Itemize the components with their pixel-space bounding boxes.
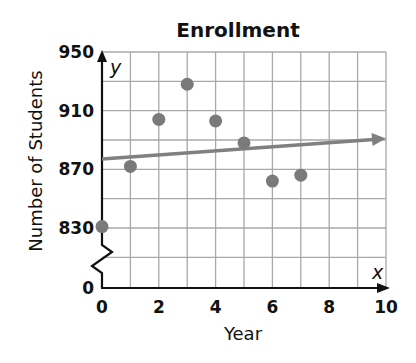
grid xyxy=(102,52,386,288)
x-tick-label: 8 xyxy=(323,297,335,317)
data-point xyxy=(294,169,307,182)
x-tick-labels: 0246810 xyxy=(96,297,398,317)
axes xyxy=(92,50,390,293)
trend-arrow-icon xyxy=(372,133,386,146)
chart-title: Enrollment xyxy=(176,18,300,42)
data-point xyxy=(152,113,165,126)
y-tick-label: 870 xyxy=(59,159,95,179)
y-variable-label: y xyxy=(109,56,122,78)
data-point xyxy=(181,78,194,91)
x-tick-label: 10 xyxy=(374,297,398,317)
y-tick-label: 830 xyxy=(59,218,95,238)
y-tick-label: 950 xyxy=(59,42,95,62)
y-axis xyxy=(92,60,112,288)
x-tick-label: 4 xyxy=(210,297,222,317)
x-tick-label: 2 xyxy=(153,297,165,317)
data-points xyxy=(96,78,308,233)
data-point xyxy=(96,220,109,233)
y-tick-labels: 0830870910950 xyxy=(59,42,95,298)
y-tick-label: 0 xyxy=(82,278,94,298)
x-tick-label: 6 xyxy=(266,297,278,317)
enrollment-chart: Enrollment 0830870910950 0246810 y x Yea… xyxy=(0,0,416,363)
data-point xyxy=(238,136,251,149)
data-point xyxy=(266,175,279,188)
y-axis-label: Number of Students xyxy=(25,70,46,251)
data-point xyxy=(209,114,222,127)
x-variable-label: x xyxy=(371,261,384,283)
x-tick-label: 0 xyxy=(96,297,108,317)
x-axis-label: Year xyxy=(223,323,263,344)
x-axis-arrow-icon xyxy=(377,283,390,293)
data-point xyxy=(124,160,137,173)
y-tick-label: 910 xyxy=(59,101,95,121)
